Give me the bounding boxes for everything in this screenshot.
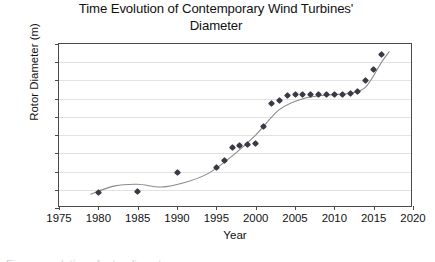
chart-title-line-2: Diameter [55,18,377,35]
x-axis-title: Year [58,228,412,241]
chart-title-line-1: Time Evolution of Contemporary Wind Turb… [55,1,377,18]
y-axis-title: Rotor Diameter (m) [28,0,40,152]
trendline [59,44,413,208]
chart-container: Time Evolution of Contemporary Wind Turb… [0,0,435,262]
chart-title: Time Evolution of Contemporary Wind Turb… [55,1,377,34]
plot-area: 020406080100120140160180 197519801985199… [58,43,412,207]
x-tick-label: 2020 [390,212,435,224]
x-tick-mark [413,206,414,210]
clipped-caption: Figure: evolution of rotor diameter [6,258,296,262]
